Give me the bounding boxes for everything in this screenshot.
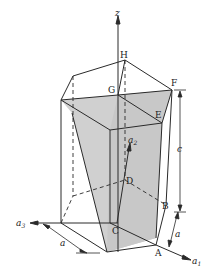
hidden-bottom-left [61,196,73,223]
vertex-label-F: F [171,78,177,88]
a3-axis-label: a3 [16,218,25,229]
a-dim-right-arrow-bottom-icon [168,240,172,247]
a-dim-right-arrow-top-icon [175,212,179,219]
vertex-label-E: E [155,110,162,120]
vertex-label-D: D [126,176,133,186]
c-dim-arrow-top-icon [178,91,182,97]
z-axis-label: z [114,8,120,18]
a1-axis-label: a1 [192,256,201,267]
vertex-label-A: A [154,248,162,258]
a3-axis-arrow-icon [30,221,38,225]
c-dimension-label: c [177,144,182,154]
vertex-label-G: G [108,85,115,95]
hexagonal-unit-cell-diagram: z H G F E D B C A a2 a3 a1 c a a [0,0,208,270]
a-dimension-left-label: a [60,238,65,248]
c-dim-arrow-bottom-icon [178,205,182,211]
a-dim-left-arrow-bottom-icon [80,249,87,253]
vertex-label-H: H [120,50,128,60]
bottom-left-edge [61,223,107,252]
a-dim-left-arrow-top-icon [43,224,50,229]
edge-HG [118,60,125,95]
a1-axis-arrow-icon [182,255,191,260]
vertex-label-B: B [162,201,169,211]
vertex-label-C: C [112,226,119,236]
a-dimension-right-label: a [175,229,180,239]
